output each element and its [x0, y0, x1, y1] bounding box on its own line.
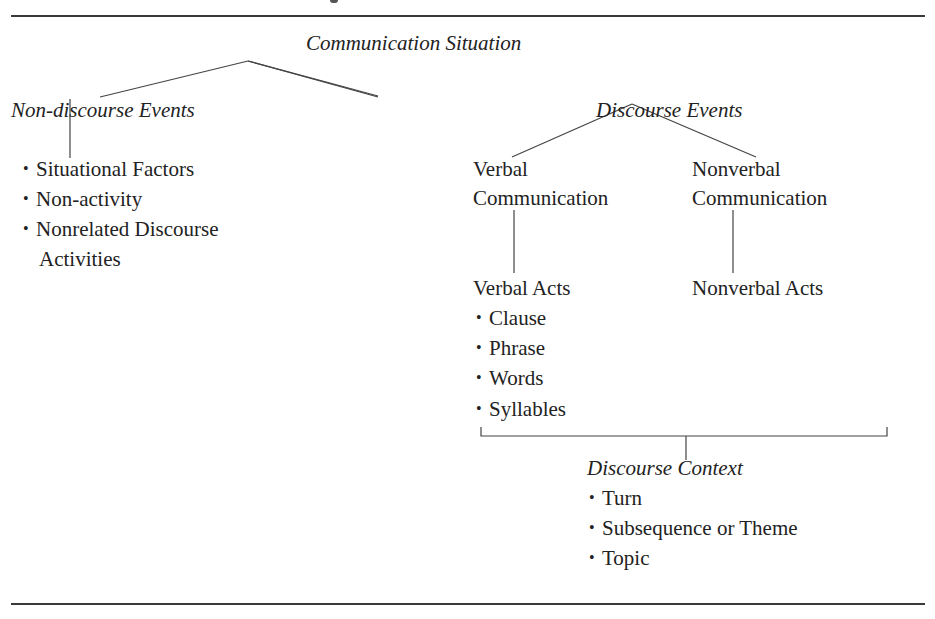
verbal-communication-line1: Verbal	[473, 154, 528, 184]
nonverbal-communication-line2: Communication	[692, 183, 827, 213]
nonverbal-communication-line1: Nonverbal	[692, 154, 781, 184]
list-item: Nonrelated Discourse	[23, 214, 219, 244]
discourse-events-node: Discourse Events	[596, 95, 742, 125]
bottom-rule	[11, 603, 925, 605]
list-item: Subsequence or Theme	[589, 513, 798, 543]
list-item: Words	[476, 363, 543, 393]
list-item: Non-activity	[23, 184, 142, 214]
list-item: Topic	[589, 543, 650, 573]
list-item: Situational Factors	[23, 154, 194, 184]
verbal-acts-node: Verbal Acts	[473, 273, 570, 303]
list-item: Clause	[476, 303, 546, 333]
list-item-continuation: Activities	[39, 244, 121, 274]
nonverbal-acts-node: Nonverbal Acts	[692, 273, 823, 303]
discourse-context-node: Discourse Context	[587, 453, 743, 483]
non-discourse-events-node: Non-discourse Events	[11, 95, 195, 125]
verbal-communication-line2: Communication	[473, 183, 608, 213]
list-item: Syllables	[476, 394, 566, 424]
root-node: Communication Situation	[306, 28, 521, 58]
list-item: Turn	[589, 483, 642, 513]
list-item: Phrase	[476, 333, 545, 363]
